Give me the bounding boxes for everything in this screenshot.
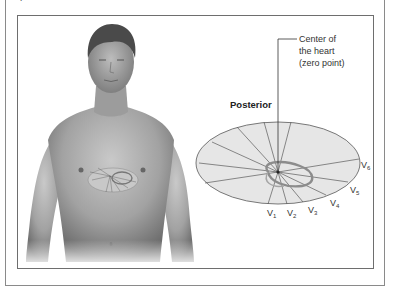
chest-lead-diagram: [88, 168, 138, 192]
center-label-line3: (zero point): [299, 57, 345, 69]
man-torso-figure: [20, 24, 200, 268]
center-of-heart-label: Center of the heart (zero point): [299, 33, 345, 69]
lead-v2-label: V2: [287, 208, 296, 219]
lead-v4-label: V4: [330, 198, 339, 209]
lead-v1-label: V1: [267, 208, 276, 219]
center-label-line1: Center of: [299, 33, 345, 45]
center-label-line2: the heart: [299, 45, 345, 57]
lead-v5-label: V5: [350, 185, 359, 196]
lead-v6-label: V6: [361, 160, 370, 171]
posterior-label: Posterior: [230, 99, 272, 111]
lead-v3-label: V3: [308, 205, 317, 216]
